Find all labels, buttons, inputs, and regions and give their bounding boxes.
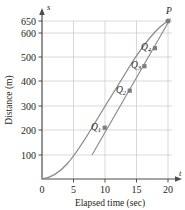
axes: [42, 13, 178, 179]
x-tick-label-15: 15: [132, 184, 142, 195]
x-tick-label-0: 0: [40, 184, 45, 195]
y-axis-symbol: s: [47, 2, 51, 12]
point-marker-Q4: [153, 46, 157, 50]
figure-distance-vs-time: 650 600 500 400 300 200 100 0 5 10 15 20…: [0, 0, 185, 210]
y-tick-label-500: 500: [21, 52, 36, 63]
x-tick-label-5: 5: [71, 184, 76, 195]
horizontal-gridlines: [42, 21, 172, 155]
point-marker-P: [166, 19, 171, 24]
point-label-P: P: [165, 6, 172, 16]
y-tick-label-600: 600: [21, 28, 36, 39]
x-axis-symbol: t: [179, 168, 182, 178]
point-label-Q4: Q4: [141, 42, 152, 53]
x-tick-labels: 0 5 10 15 20: [40, 184, 174, 195]
point-labels: Q1 Q2 Q3 Q4 P: [91, 6, 172, 133]
chart-svg: 650 600 500 400 300 200 100 0 5 10 15 20…: [0, 0, 185, 210]
y-tick-label-100: 100: [21, 150, 36, 161]
y-axis-arrowhead: [39, 8, 45, 15]
x-axis-title: Elapsed time (sec): [75, 198, 145, 209]
y-axis-title: Distance (m): [4, 75, 15, 124]
y-tick-label-200: 200: [21, 125, 36, 136]
x-tick-label-10: 10: [100, 184, 110, 195]
point-marker-Q2: [128, 89, 132, 93]
y-tick-label-650: 650: [21, 16, 36, 27]
x-tick-label-20: 20: [163, 184, 173, 195]
point-label-Q3: Q3: [131, 60, 142, 71]
point-label-Q1: Q1: [91, 122, 101, 133]
y-tick-label-400: 400: [21, 76, 36, 87]
y-tick-labels: 650 600 500 400 300 200 100: [21, 16, 36, 161]
point-marker-Q3: [142, 64, 146, 68]
point-marker-Q1: [103, 126, 107, 130]
secant-line: [92, 19, 171, 156]
y-tick-label-300: 300: [21, 101, 36, 112]
point-label-Q2: Q2: [116, 85, 127, 96]
